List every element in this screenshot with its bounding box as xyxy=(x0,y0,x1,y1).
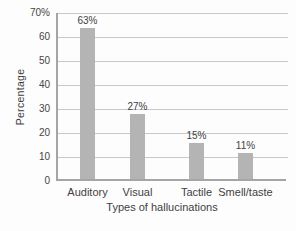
y-axis-title: Percentage xyxy=(14,69,26,126)
bar-auditory xyxy=(80,28,95,179)
y-tick-label: 0 xyxy=(0,175,50,187)
plot-area: 63%27%15%11% xyxy=(56,13,286,181)
bar-value-label: 63% xyxy=(68,15,108,26)
bar-value-label: 15% xyxy=(177,130,217,141)
bar-smell-taste xyxy=(238,153,253,179)
y-tick-label: 60 xyxy=(0,31,50,43)
x-category-label: Smell/taste xyxy=(204,186,288,198)
bar-value-label: 27% xyxy=(118,101,158,112)
bar-tactile xyxy=(189,143,204,179)
y-tick-label: 70% xyxy=(0,7,50,19)
y-tick-label: 30 xyxy=(0,103,50,115)
y-tick-label: 50 xyxy=(0,55,50,67)
bar-visual xyxy=(130,114,145,179)
bar-value-label: 11% xyxy=(226,140,266,151)
bar-chart: Percentage 63%27%15%11% Types of halluci… xyxy=(0,0,296,231)
y-tick-label: 40 xyxy=(0,79,50,91)
x-axis-title: Types of hallucinations xyxy=(56,201,268,213)
y-tick-label: 20 xyxy=(0,127,50,139)
y-tick-label: 10 xyxy=(0,151,50,163)
